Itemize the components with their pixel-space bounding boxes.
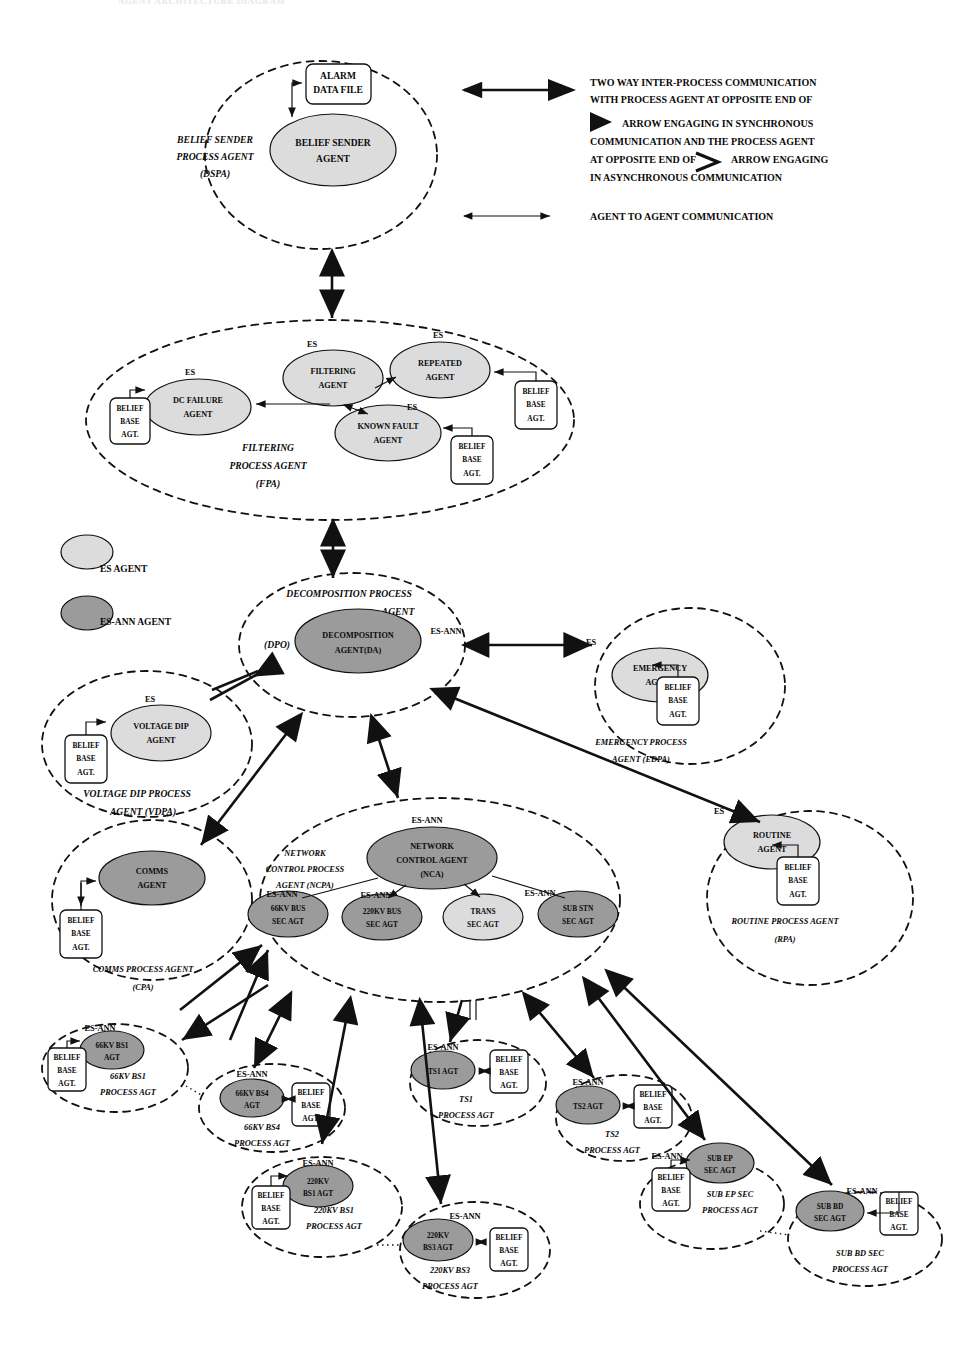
bb-edpa-l3: AGT. [669, 710, 686, 719]
link-dpo-ncpa [372, 718, 398, 798]
sub-bd-label-l1: SUB BD SEC [836, 1249, 884, 1258]
edpa-label-line2: AGENT (EDPA) [611, 755, 670, 764]
agent-belief-sender-agent[interactable]: BELIEF SENDER AGENT [270, 114, 396, 186]
belief-base-sub-ep: BELIEF BASE AGT. [652, 1168, 690, 1211]
220kv-bs3-line2: BS3 AGT [423, 1243, 453, 1252]
agent-trans-sec-agt[interactable]: TRANS SEC AGT [443, 894, 523, 940]
legend-line-3: ARROW ENGAGING IN SYNCHRONOUS [622, 118, 814, 129]
agent-66kv-bus-sec-agt[interactable]: 66KV BUS SEC AGT ES-ANN [248, 890, 328, 937]
belief-base-cpa: BELIEF BASE AGT. [60, 910, 102, 958]
agent-66kv-bs1-agt[interactable]: 66KV BS1 AGT ES-ANN [80, 1024, 144, 1069]
agent-filtering-agent[interactable]: FILTERING AGENT ES [283, 340, 383, 406]
link-bb-knownfault [443, 428, 472, 436]
legend-line-7: IN ASYNCHRONOUS COMMUNICATION [590, 172, 783, 183]
agent-repeated-agent[interactable]: REPEATED AGENT ES [390, 331, 490, 398]
bb-subbd-l3: AGT. [890, 1223, 907, 1232]
comms-agent-line1: COMMS [136, 867, 169, 876]
agent-66kv-bs4-agt[interactable]: 66KV BS4 AGT ES-ANN [220, 1070, 284, 1117]
legend-line-4: COMMUNICATION AND THE PROCESS AGENT [590, 136, 815, 147]
nca-line3: (NCA) [420, 870, 443, 879]
filtering-agent-tag: ES [307, 340, 318, 349]
legend-line-5: AT OPPOSITE END OF [590, 154, 696, 165]
bb-66bs4-l2: BASE [301, 1101, 320, 1110]
ts2-label-l2: PROCESS AGT [584, 1146, 641, 1155]
bb-ts2-l2: BASE [643, 1103, 662, 1112]
bb-220bs3-l2: BASE [499, 1246, 518, 1255]
link-subep-subbd [760, 1231, 790, 1235]
legend-key-es-label: ES AGENT [100, 564, 148, 574]
link-bb-dcfailure [130, 390, 145, 398]
220kv-bs1-label-l2: PROCESS AGT [306, 1222, 363, 1231]
bb-vdpa-l2: BASE [76, 754, 95, 763]
nca-line1: NETWORK [410, 842, 454, 851]
agent-sub-bd-sec-agt[interactable]: SUB BD SEC AGT ES-ANN [796, 1187, 878, 1231]
sub-ep-line2: SEC AGT [704, 1166, 736, 1175]
220kv-bs3-tag: ES-ANN [449, 1212, 480, 1221]
bb-fpa-right-l3: AGT. [527, 414, 544, 423]
agent-ts2-agt[interactable]: TS2 AGT ES-ANN [556, 1078, 620, 1124]
link-66bs1-66bs4 [186, 1086, 203, 1096]
ts2-label-l1: TS2 [605, 1130, 619, 1139]
ncpa-label-line1: NETWORK [283, 849, 327, 858]
bb-subep-l2: BASE [661, 1186, 680, 1195]
bb-rpa-l3: AGT. [789, 890, 806, 899]
diagram-page: AGENT ARCHITECTURE DIAGRAM ALA [0, 0, 953, 1351]
66kv-bs1-tag: ES-ANN [84, 1024, 115, 1033]
agent-comms-agent[interactable]: COMMS AGENT [99, 851, 205, 905]
bb-cpa-l1: BELIEF [67, 916, 95, 925]
dc-failure-agent-line2: AGENT [183, 410, 213, 419]
220kv-bs1-label-l1: 220KV BS1 [313, 1206, 354, 1215]
belief-sender-agent-line1: BELIEF SENDER [295, 138, 371, 148]
agent-known-fault-agent[interactable]: KNOWN FAULT AGENT ES [335, 403, 441, 461]
dspa-file-link-in [292, 83, 302, 96]
trans-line2: SEC AGT [467, 920, 499, 929]
agent-dc-failure-agent[interactable]: DC FAILURE AGENT ES [145, 368, 251, 435]
agent-voltage-dip-agent[interactable]: VOLTAGE DIP AGENT ES [111, 695, 211, 761]
fpa-label-line3: (FPA) [256, 478, 280, 490]
66kv-bs1-line1: 66KV BS1 [96, 1041, 129, 1050]
routine-agent-line1: ROUTINE [753, 831, 792, 840]
legend-agent-to-agent-text: AGENT TO AGENT COMMUNICATION [590, 211, 774, 222]
sub-ep-label-l2: PROCESS AGT [702, 1206, 759, 1215]
bb-220bs3-l3: AGT. [500, 1259, 517, 1268]
belief-base-ts1: BELIEF BASE AGT. [490, 1050, 528, 1093]
legend-line-1: TWO WAY INTER-PROCESS COMMUNICATION [590, 77, 817, 88]
dc-failure-agent-tag: ES [185, 368, 196, 377]
vdpa-label-line1: VOLTAGE DIP PROCESS [83, 788, 191, 799]
bb-fpa-left-l1: BELIEF [116, 404, 144, 413]
rpa-label-line2: (RPA) [774, 935, 795, 944]
decomposition-agent-line1: DECOMPOSITION [322, 631, 394, 640]
agent-decomposition-agent[interactable]: DECOMPOSITION AGENT(DA) [295, 609, 421, 673]
sub-ep-label-l1: SUB EP SEC [707, 1190, 754, 1199]
bb-fpa-right-l2: BASE [526, 400, 545, 409]
agent-sub-stn-sec-agt[interactable]: SUB STN SEC AGT ES-ANN [524, 889, 618, 937]
sub-bd-line2: SEC AGT [814, 1214, 846, 1223]
sub-bd-label-l2: PROCESS AGT [832, 1265, 889, 1274]
agent-network-control-agent[interactable]: NETWORK CONTROL AGENT (NCA) ES-ANN [367, 816, 497, 889]
bb-subep-l3: AGT. [662, 1199, 679, 1208]
agent-220kv-bs3-agt[interactable]: 220KV BS3 AGT ES-ANN [403, 1212, 481, 1261]
legend-key-es-ann-agent: ES-ANN AGENT [61, 596, 172, 630]
bb-rpa-l1: BELIEF [784, 863, 812, 872]
bb-220bs1-l1: BELIEF [257, 1191, 285, 1200]
66kv-bs4-label-l1: 66KV BS4 [244, 1123, 280, 1132]
agent-ts1-agt[interactable]: TS1 AGT ES-ANN [411, 1043, 475, 1089]
voltage-dip-agent-line1: VOLTAGE DIP [133, 722, 189, 731]
agent-220kv-bus-sec-agt[interactable]: 220KV BUS SEC AGT ES-ANN [342, 891, 422, 940]
bb-cpa-l2: BASE [71, 929, 90, 938]
bb-fpa-bottom-l1: BELIEF [458, 442, 486, 451]
agent-220kv-bs1-agt[interactable]: 220KV BS1 AGT ES-ANN [283, 1159, 353, 1207]
link-dpo-rpa [434, 690, 760, 822]
link-ncpa-66bs4 [254, 995, 290, 1068]
legend-line-2: WITH PROCESS AGENT AT OPPOSITE END OF [590, 94, 812, 105]
bb-ts1-l1: BELIEF [495, 1055, 523, 1064]
routine-agent-line2: AGENT [757, 845, 787, 854]
legend-agent-to-agent: AGENT TO AGENT COMMUNICATION [464, 211, 774, 222]
bb-edpa-l1: BELIEF [664, 683, 692, 692]
voltage-dip-agent-tag: ES [145, 695, 156, 704]
bb-ts2-l3: AGT. [644, 1116, 661, 1125]
bb-220bs1-l3: AGT. [262, 1217, 279, 1226]
220kv-bs3-label-l2: PROCESS AGT [422, 1282, 479, 1291]
filtering-agent-line1: FILTERING [310, 367, 356, 376]
rpa-label-line1: ROUTINE PROCESS AGENT [730, 917, 839, 926]
